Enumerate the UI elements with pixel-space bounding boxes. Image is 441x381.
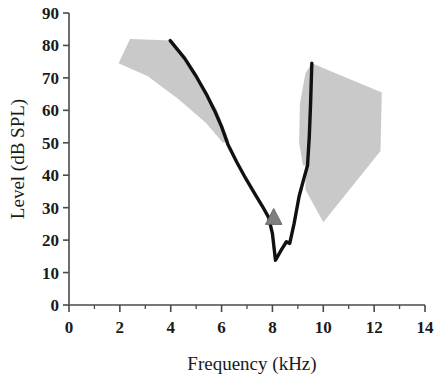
y-tick-label: 10 — [42, 264, 59, 283]
x-tick-label: 8 — [268, 318, 277, 337]
chart-figure: 0102030405060708090 02468101214 Level (d… — [0, 0, 441, 381]
x-axis-ticks — [69, 305, 425, 312]
chart-plot-area: 0102030405060708090 02468101214 Level (d… — [0, 0, 441, 381]
y-tick-label: 50 — [42, 134, 59, 153]
y-tick-label: 30 — [42, 199, 59, 218]
y-tick-label: 90 — [42, 4, 59, 23]
x-tick-label: 0 — [65, 318, 74, 337]
shaded-region-low-frequency — [119, 39, 230, 143]
y-axis-title: Level (dB SPL) — [7, 99, 29, 219]
x-tick-label: 10 — [315, 318, 332, 337]
y-tick-label: 0 — [51, 296, 60, 315]
y-tick-label: 40 — [42, 166, 59, 185]
x-axis-tick-labels: 02468101214 — [65, 318, 434, 337]
shaded-regions-group — [119, 39, 382, 222]
y-axis-ticks — [63, 13, 69, 305]
y-tick-label: 60 — [42, 101, 59, 120]
x-axis-title: Frequency (kHz) — [187, 353, 316, 375]
y-tick-label: 20 — [42, 231, 59, 250]
y-tick-label: 80 — [42, 36, 59, 55]
y-axis-tick-labels: 0102030405060708090 — [42, 4, 59, 315]
x-tick-label: 2 — [116, 318, 125, 337]
x-tick-label: 12 — [366, 318, 383, 337]
x-tick-label: 4 — [166, 318, 175, 337]
x-tick-label: 6 — [217, 318, 226, 337]
x-tick-label: 14 — [417, 318, 435, 337]
y-tick-label: 70 — [42, 69, 59, 88]
